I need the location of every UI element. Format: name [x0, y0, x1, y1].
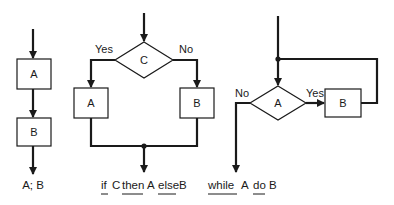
caption-a: A — [147, 179, 155, 191]
caption-c: C — [112, 179, 120, 191]
kw-if: if — [101, 179, 108, 191]
flowchart-diagrams: A B A; B C Yes No A B if C then A else B — [0, 0, 394, 205]
caption-a: A — [241, 179, 249, 191]
caption-b: B — [179, 179, 187, 191]
loop-yes-label: Yes — [306, 87, 324, 99]
yes-branch-arrow — [91, 60, 115, 87]
sequence-box-b-label: B — [30, 126, 37, 138]
condition-label: C — [140, 54, 148, 66]
no-label: No — [179, 43, 193, 55]
kw-do: do — [253, 179, 266, 191]
no-branch-arrow — [173, 60, 197, 87]
caption-b: B — [269, 179, 277, 191]
loop-condition-label: A — [274, 97, 282, 109]
kw-while: while — [207, 179, 234, 191]
kw-else: else — [158, 179, 179, 191]
while-do-diagram: A Yes No B while A do B — [207, 16, 377, 194]
sequence-caption: A; B — [22, 179, 44, 191]
sequence-diagram: A B A; B — [17, 29, 51, 191]
while-caption: while A do B — [207, 179, 277, 191]
sequence-box-a-label: A — [30, 68, 38, 80]
loop-body-box-b-label: B — [339, 97, 346, 109]
if-caption: if C then A else B — [101, 179, 187, 191]
if-box-b-label: B — [193, 97, 200, 109]
no-exit-arrow — [236, 103, 250, 172]
loop-no-label: No — [235, 87, 249, 99]
yes-label: Yes — [95, 43, 113, 55]
if-then-else-diagram: C Yes No A B if C then A else B — [74, 13, 214, 194]
if-box-a-label: A — [87, 97, 95, 109]
kw-then: then — [122, 179, 144, 191]
merge-line — [91, 118, 197, 146]
